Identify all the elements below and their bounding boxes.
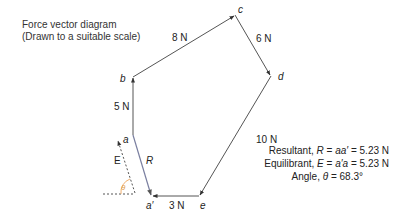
vertex-d-label: d [278, 71, 284, 82]
vertex-b-label: b [120, 73, 126, 84]
vertex-a-prime-label: a′ [146, 200, 155, 211]
vertex-c-label: c [238, 4, 243, 15]
equilibrant-label: E [114, 155, 121, 166]
force-bc-label: 8 N [172, 32, 188, 43]
results-panel: Resultant, R = aa′ = 5.23 N Equilibrant,… [264, 144, 389, 183]
force-cd-label: 6 N [256, 33, 272, 44]
angle-result: Angle, θ = 68.3° [264, 170, 389, 183]
angle-label: θ [121, 183, 126, 192]
equilibrant-result: Equilibrant, E = a′a = 5.23 N [264, 157, 389, 170]
vertex-a-label: a [123, 134, 129, 145]
resultant-label: R [146, 155, 153, 166]
resultant-result: Resultant, R = aa′ = 5.23 N [264, 144, 389, 157]
vector-bc [133, 16, 234, 77]
force-ea-prime-label: 3 N [169, 200, 185, 211]
vertex-e-label: e [200, 200, 206, 211]
force-ab-label: 5 N [114, 101, 130, 112]
vector-cd [235, 15, 270, 75]
